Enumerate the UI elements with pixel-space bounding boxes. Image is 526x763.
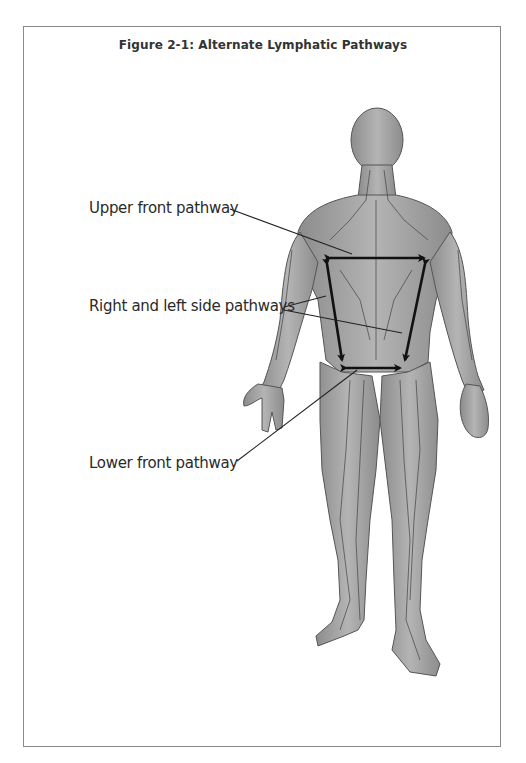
torso — [298, 195, 452, 372]
label-lower-front-pathway: Lower front pathway — [89, 454, 238, 472]
neck — [358, 165, 396, 198]
right-leg — [316, 362, 380, 646]
body-silhouette — [244, 108, 489, 676]
label-right-left-side-pathways: Right and left side pathways — [89, 297, 295, 315]
head — [351, 108, 403, 172]
human-body-lymphatic-illustration — [0, 0, 526, 763]
left-hand — [460, 384, 488, 438]
left-arm — [430, 232, 484, 394]
label-upper-front-pathway: Upper front pathway — [89, 199, 238, 217]
right-hand — [244, 384, 284, 432]
left-leg — [380, 362, 440, 676]
